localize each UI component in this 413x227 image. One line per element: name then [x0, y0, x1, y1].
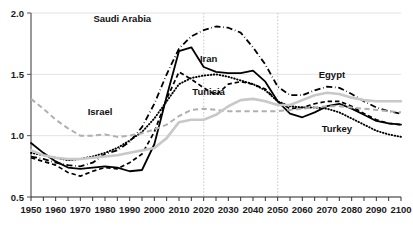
series-label-iran: Iran [200, 53, 218, 64]
series-label-tunisia: Tunisia [192, 86, 225, 97]
x-tick-label: 1950 [20, 204, 41, 215]
y-tick-label: 2.0 [11, 8, 24, 19]
x-tick-label: 2010 [168, 204, 189, 215]
y-tick-labels: 0.51.01.52.0 [11, 8, 25, 203]
series-label-saudi-arabia: Saudi Arabia [93, 13, 151, 24]
series-line-iran [31, 47, 401, 171]
x-tick-label: 1980 [94, 204, 115, 215]
series-labels: IranTunisiaTurkeySaudi ArabiaIsraelEgypt [88, 13, 353, 134]
x-tick-label: 2070 [316, 204, 337, 215]
x-tick-label: 2040 [242, 204, 263, 215]
series-label-egypt: Egypt [319, 69, 346, 80]
x-axis [31, 197, 401, 201]
x-tick-label: 2080 [341, 204, 362, 215]
x-tick-label: 2030 [218, 204, 239, 215]
population-ratio-line-chart: 0.51.01.52.0 195019601970198019902000201… [0, 0, 413, 227]
y-tick-label: 0.5 [11, 192, 25, 203]
x-tick-label: 2100 [390, 204, 411, 215]
x-tick-label: 1990 [119, 204, 140, 215]
data-series [31, 26, 401, 176]
y-tick-label: 1.0 [11, 130, 24, 141]
x-tick-label: 1970 [70, 204, 91, 215]
x-tick-label: 2060 [292, 204, 313, 215]
y-tick-label: 1.5 [11, 69, 25, 80]
x-tick-label: 2050 [267, 204, 288, 215]
chart-container: 0.51.01.52.0 195019601970198019902000201… [0, 0, 413, 227]
x-tick-labels: 1950196019701980199020002010202020302040… [20, 204, 411, 215]
x-tick-label: 2090 [366, 204, 387, 215]
x-tick-label: 2000 [144, 204, 165, 215]
series-label-turkey: Turkey [322, 123, 353, 134]
x-tick-label: 2020 [193, 204, 214, 215]
x-tick-label: 1960 [45, 204, 66, 215]
gridlines [31, 13, 401, 197]
y-axis [27, 13, 31, 197]
vertical-marker-lines [204, 13, 278, 197]
series-label-israel: Israel [88, 106, 113, 117]
